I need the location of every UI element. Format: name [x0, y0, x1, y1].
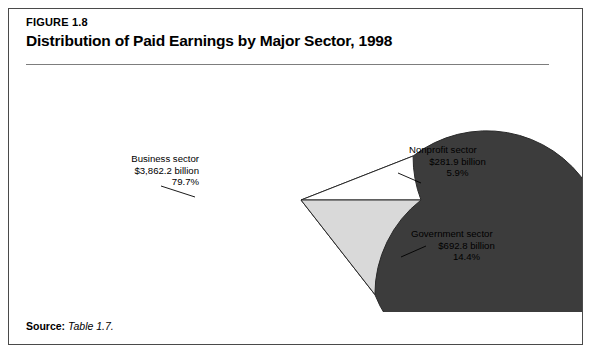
- pie-label-business-value: $3,862.2 billion: [89, 165, 199, 177]
- pie-label-nonprofit-percent: 5.9%: [409, 167, 506, 179]
- pie-label-business: Business sector $3,862.2 billion 79.7%: [89, 153, 199, 188]
- pie-chart: Business sector $3,862.2 billion 79.7% N…: [9, 67, 583, 312]
- pie-label-nonprofit: Nonprofit sector $281.9 billion 5.9%: [409, 144, 539, 179]
- figure-header: FIGURE 1.8 Distribution of Paid Earnings…: [9, 9, 582, 50]
- pie-label-government: Government sector $692.8 billion 14.4%: [411, 228, 551, 263]
- pie-label-nonprofit-value: $281.9 billion: [409, 156, 506, 168]
- source-label: Source:: [26, 320, 65, 332]
- page-title: Distribution of Paid Earnings by Major S…: [26, 31, 582, 50]
- title-divider: [26, 64, 549, 65]
- pie-label-business-name: Business sector: [89, 153, 199, 165]
- pie-label-government-percent: 14.4%: [411, 251, 522, 263]
- pie-chart-svg: [9, 67, 583, 312]
- pie-label-nonprofit-name: Nonprofit sector: [409, 144, 539, 156]
- pie-label-business-percent: 79.7%: [89, 176, 199, 188]
- pie-label-government-name: Government sector: [411, 228, 551, 240]
- source-value: Table 1.7.: [68, 320, 114, 332]
- source-note: Source: Table 1.7.: [26, 320, 114, 332]
- pie-slice-nonprofit[interactable]: [301, 156, 421, 200]
- figure-frame: FIGURE 1.8 Distribution of Paid Earnings…: [8, 8, 583, 345]
- figure-number: FIGURE 1.8: [26, 16, 582, 29]
- pie-label-government-value: $692.8 billion: [411, 240, 522, 252]
